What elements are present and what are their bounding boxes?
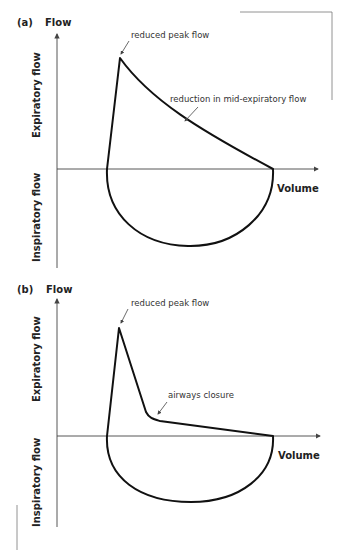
- annotation-airways-closure: airways closure: [168, 390, 234, 400]
- panel-label: (a): [17, 17, 33, 28]
- annotation-mid-expiratory-flow: reduction in mid-expiratory flow: [170, 94, 306, 104]
- expiratory-flow-label: Expiratory flow: [31, 316, 42, 402]
- flow-volume-loop: [107, 58, 273, 246]
- inspiratory-flow-label: Inspiratory flow: [31, 438, 42, 527]
- panel-b: (b) Flow Volume Expiratory flow Inspirat…: [17, 284, 320, 527]
- annotation-arrow: [121, 41, 129, 54]
- expiratory-flow-label: Expiratory flow: [31, 52, 42, 138]
- panel-label: (b): [17, 284, 33, 295]
- x-axis-title: Volume: [277, 183, 319, 194]
- flow-volume-loop: [107, 328, 273, 502]
- annotation-arrow: [121, 309, 128, 323]
- panel-a: (a) Flow Volume Expiratory flow Inspirat…: [17, 17, 319, 268]
- annotation-arrow: [185, 107, 198, 121]
- corner-bracket-top: [240, 12, 332, 100]
- flow-volume-diagram: (a) Flow Volume Expiratory flow Inspirat…: [0, 0, 339, 550]
- x-axis-title: Volume: [278, 450, 320, 461]
- annotation-reduced-peak-flow: reduced peak flow: [131, 298, 209, 308]
- annotation-reduced-peak-flow: reduced peak flow: [131, 30, 209, 40]
- inspiratory-flow-label: Inspiratory flow: [31, 173, 42, 262]
- annotation-arrow: [158, 402, 167, 414]
- y-axis-title: Flow: [46, 284, 72, 295]
- y-axis-title: Flow: [45, 17, 71, 28]
